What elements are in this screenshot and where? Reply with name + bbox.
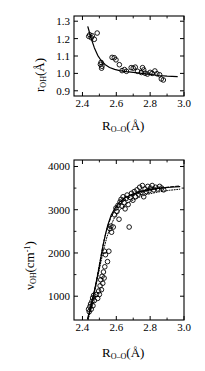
x-tick-label: 2.6: [109, 321, 123, 333]
data-point: [133, 194, 138, 199]
data-point: [105, 259, 110, 264]
top-panel-xlabel: RO–O(Å): [102, 118, 144, 134]
x-tick-label: 3.0: [177, 321, 191, 333]
y-tick-label: 2000: [48, 247, 71, 259]
plot-frame: [74, 16, 184, 96]
y-tick-label: 3000: [48, 204, 71, 216]
y-tick-label: 1.2: [56, 33, 70, 45]
y-tick-label: 4000: [48, 160, 71, 172]
panel-bottom-panel: 2.42.62.83.01000200030004000: [48, 160, 191, 333]
y-tick-label: 1.1: [56, 50, 70, 62]
x-tick-label: 2.6: [109, 97, 123, 109]
data-point: [123, 207, 128, 212]
data-point: [107, 249, 112, 254]
bottom-panel-xlabel: RO–O(Å): [102, 345, 144, 361]
x-tick-label: 2.4: [76, 321, 90, 333]
x-tick-label: 2.8: [143, 97, 157, 109]
x-tick-label: 2.4: [76, 97, 90, 109]
fit-curve-fit-dashed: [88, 186, 180, 319]
data-point: [95, 31, 100, 36]
y-tick-label: 1.3: [56, 15, 70, 27]
data-point: [103, 265, 108, 270]
data-point: [127, 225, 132, 230]
x-tick-label: 3.0: [177, 97, 191, 109]
data-points: [86, 183, 166, 314]
y-tick-label: 1.0: [56, 67, 70, 79]
x-tick-label: 2.8: [143, 321, 157, 333]
data-point: [101, 270, 106, 275]
scientific-figure: 2.42.62.83.00.91.01.11.21.32.42.62.83.01…: [0, 0, 205, 371]
data-point: [117, 217, 122, 222]
top-panel-ylabel: rOH(Å): [32, 92, 66, 108]
bottom-panel-ylabel: νOH(cm-1): [22, 290, 71, 306]
data-point: [117, 62, 122, 67]
panel-top-panel: 2.42.62.83.00.91.01.11.21.3: [56, 15, 191, 109]
figure-container: 2.42.62.83.00.91.01.11.21.32.42.62.83.01…: [0, 0, 205, 371]
plot-frame: [74, 160, 184, 320]
